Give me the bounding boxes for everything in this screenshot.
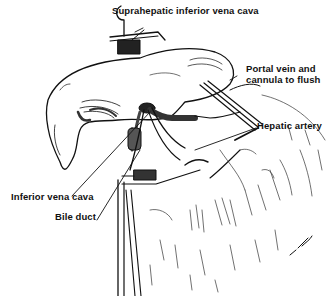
label-inferior-vena-cava: Inferior vena cava <box>11 191 94 202</box>
label-bile-duct: Bile duct <box>55 211 96 222</box>
hilum <box>128 103 240 170</box>
signature-mark <box>290 236 312 255</box>
label-portal-vein-line1: Portal vein and <box>246 63 316 74</box>
leader-lines <box>72 28 256 220</box>
label-portal-vein-line2: cannula to flush <box>246 74 320 85</box>
label-hepatic-artery: Hepatic artery <box>257 120 322 131</box>
label-suprahepatic-ivc: Suprahepatic inferior vena cava <box>112 5 259 16</box>
lower-clamp <box>118 160 208 296</box>
top-clamp <box>110 30 165 54</box>
liver-illustration <box>0 0 334 296</box>
